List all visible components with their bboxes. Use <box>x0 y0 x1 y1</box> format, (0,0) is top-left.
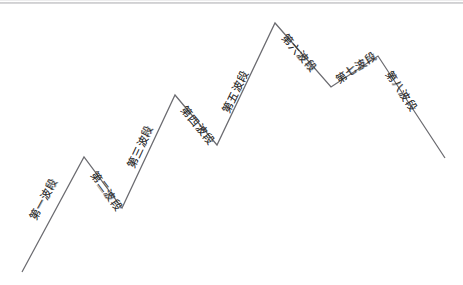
wave-segment-figure: 第一波段 第二波段 第三波段 第四波段 第五波段 第六波段 第七波段 第八波段 <box>0 0 463 285</box>
wave-polyline-chart <box>0 0 463 285</box>
wave-polyline <box>22 23 445 272</box>
